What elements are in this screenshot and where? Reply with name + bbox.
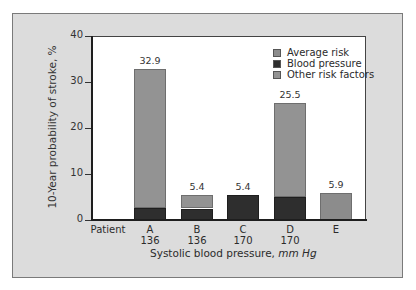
bar-value-label: 5.4 bbox=[177, 181, 217, 192]
category-name: D bbox=[265, 224, 315, 235]
bar-value-label: 32.9 bbox=[130, 55, 170, 66]
x-axis-label-text: Systolic blood pressure, bbox=[150, 247, 275, 259]
bar-value-label: 25.5 bbox=[270, 89, 310, 100]
legend: Average risk Blood pressure Other risk f… bbox=[273, 47, 374, 80]
legend-swatch-other-risk-factors bbox=[273, 71, 281, 79]
category-name: A bbox=[125, 224, 175, 235]
x-axis-label-unit: mm Hg bbox=[278, 247, 316, 259]
legend-item-other-risk-factors: Other risk factors bbox=[273, 69, 374, 80]
category-sbp: 170 bbox=[218, 235, 268, 246]
x-category-label: E bbox=[311, 224, 361, 235]
x-category-label: D170 bbox=[265, 224, 315, 246]
category-name: C bbox=[218, 224, 268, 235]
x-category-label: A136 bbox=[125, 224, 175, 246]
legend-swatch-average-risk bbox=[273, 49, 281, 57]
category-sbp: 136 bbox=[125, 235, 175, 246]
category-sbp: 136 bbox=[172, 235, 222, 246]
x-axis bbox=[91, 219, 367, 221]
bar-value-label: 5.9 bbox=[316, 179, 356, 190]
legend-label: Average risk bbox=[287, 47, 349, 58]
y-tick-label: 30 bbox=[63, 75, 83, 86]
legend-item-blood-pressure: Blood pressure bbox=[273, 58, 374, 69]
y-tick-label: 40 bbox=[63, 29, 83, 40]
bar-segment-other-risk-factors bbox=[134, 69, 166, 208]
legend-item-average-risk: Average risk bbox=[273, 47, 374, 58]
y-tick-label: 0 bbox=[63, 213, 83, 224]
bar-value-label: 5.4 bbox=[223, 181, 263, 192]
bar-segment-other-risk-factors bbox=[274, 103, 306, 197]
y-tick-label: 20 bbox=[63, 121, 83, 132]
category-name: B bbox=[172, 224, 222, 235]
x-category-label: B136 bbox=[172, 224, 222, 246]
legend-swatch-blood-pressure bbox=[273, 60, 281, 68]
category-sbp: 170 bbox=[265, 235, 315, 246]
category-name: E bbox=[311, 224, 361, 235]
bar-segment-other-risk-factors bbox=[181, 195, 213, 208]
bar-segment-average-risk bbox=[320, 193, 352, 220]
legend-label: Blood pressure bbox=[287, 58, 362, 69]
x-category-label: C170 bbox=[218, 224, 268, 246]
bar-segment-blood-pressure bbox=[274, 197, 306, 220]
y-axis bbox=[91, 36, 93, 221]
x-axis-label: Systolic blood pressure, mm Hg bbox=[150, 247, 317, 259]
legend-label: Other risk factors bbox=[287, 69, 374, 80]
y-tick-label: 10 bbox=[63, 167, 83, 178]
y-axis-label: 10-Year probability of stroke, % bbox=[46, 45, 58, 208]
bar-segment-blood-pressure bbox=[227, 195, 259, 220]
